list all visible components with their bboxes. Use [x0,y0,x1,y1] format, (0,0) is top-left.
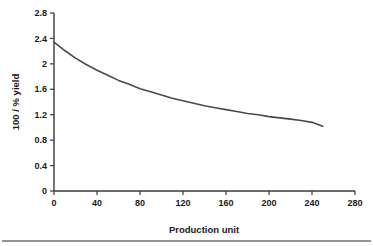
y-tick-label: 1.6 [34,84,47,94]
x-tick-label: 200 [261,198,276,208]
y-tick-label: 0.8 [34,135,47,145]
chart-figure: 00.40.81.21.622.42.8 0408012016020024028… [0,0,373,246]
y-tick-label: 2.4 [34,34,47,44]
chart-background [0,0,373,246]
x-tick-label: 80 [135,198,145,208]
y-tick-label: 2.8 [34,8,47,18]
x-tick-label: 280 [347,198,362,208]
y-tick-label: 0 [42,186,47,196]
line-chart: 00.40.81.21.622.42.8 0408012016020024028… [0,0,373,246]
y-tick-label: 1.2 [34,110,47,120]
y-axis-title: 100 / % yield [10,74,21,131]
x-axis-title: Production unit [169,224,240,235]
x-tick-label: 120 [175,198,190,208]
y-tick-label: 0.4 [34,161,47,171]
x-tick-label: 0 [51,198,56,208]
x-tick-label: 40 [92,198,102,208]
x-tick-label: 240 [304,198,319,208]
y-tick-label: 2 [42,59,47,69]
x-tick-label: 160 [218,198,233,208]
